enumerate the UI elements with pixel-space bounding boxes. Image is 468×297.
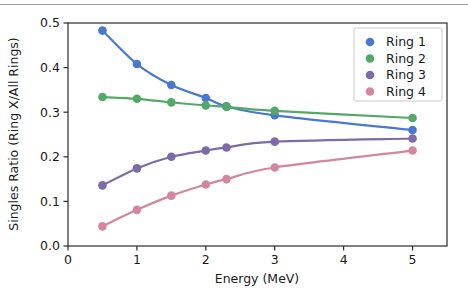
y-axis-label: Singles Ratio (Ring X/All Rings)	[6, 37, 21, 231]
series-4	[98, 146, 417, 230]
data-point-marker	[98, 222, 107, 231]
series-3	[98, 134, 417, 189]
data-point-marker	[202, 101, 211, 110]
data-point-marker	[222, 143, 231, 152]
data-point-marker	[133, 164, 142, 173]
x-tick-label: 2	[202, 252, 210, 267]
x-axis-ticks	[68, 246, 413, 251]
data-point-marker	[408, 126, 417, 135]
data-point-marker	[222, 103, 231, 112]
y-tick-label: 0.0	[40, 238, 60, 253]
data-point-marker	[270, 137, 279, 146]
y-tick-label: 0.1	[40, 194, 60, 209]
x-axis-tick-labels: 012345	[64, 252, 416, 267]
y-axis-tick-labels: 0.00.10.20.30.40.5	[40, 15, 60, 253]
data-point-marker	[133, 60, 142, 69]
data-point-marker	[222, 175, 231, 184]
chart-canvas: 012345 0.00.10.20.30.40.5 Energy (MeV) S…	[0, 0, 468, 297]
legend-label-1: Ring 1	[386, 34, 426, 49]
series-line	[102, 139, 412, 186]
legend-label-3: Ring 3	[386, 67, 426, 82]
data-point-marker	[98, 26, 107, 35]
legend-marker-4	[366, 87, 375, 96]
data-point-marker	[408, 146, 417, 155]
data-point-marker	[202, 180, 211, 189]
data-point-marker	[270, 163, 279, 172]
x-tick-label: 3	[271, 252, 279, 267]
legend-marker-3	[366, 71, 375, 80]
series-line	[102, 151, 412, 227]
data-point-marker	[270, 107, 279, 116]
data-point-marker	[408, 134, 417, 143]
x-axis-label: Energy (MeV)	[215, 271, 300, 286]
x-tick-label: 5	[409, 252, 417, 267]
legend-marker-2	[366, 54, 375, 63]
figure-container: 012345 0.00.10.20.30.40.5 Energy (MeV) S…	[0, 0, 468, 297]
data-point-marker	[133, 206, 142, 215]
x-tick-label: 0	[64, 252, 72, 267]
data-point-marker	[167, 153, 176, 162]
data-point-marker	[408, 114, 417, 123]
data-point-marker	[202, 94, 211, 103]
y-tick-label: 0.3	[40, 105, 60, 120]
y-tick-label: 0.5	[40, 15, 60, 30]
data-point-marker	[167, 81, 176, 90]
x-tick-label: 4	[340, 252, 348, 267]
data-point-marker	[167, 191, 176, 200]
y-axis-ticks	[64, 23, 69, 246]
x-tick-label: 1	[133, 252, 141, 267]
data-point-marker	[133, 95, 142, 104]
data-point-marker	[98, 93, 107, 102]
legend-label-4: Ring 4	[386, 84, 426, 99]
data-point-marker	[98, 181, 107, 190]
data-point-marker	[202, 146, 211, 155]
y-tick-label: 0.2	[40, 149, 60, 164]
legend-label-2: Ring 2	[386, 51, 426, 66]
data-point-marker	[167, 98, 176, 107]
chart-legend[interactable]: Ring 1Ring 2Ring 3Ring 4	[354, 28, 442, 101]
legend-marker-1	[366, 38, 375, 47]
y-tick-label: 0.4	[40, 60, 60, 75]
